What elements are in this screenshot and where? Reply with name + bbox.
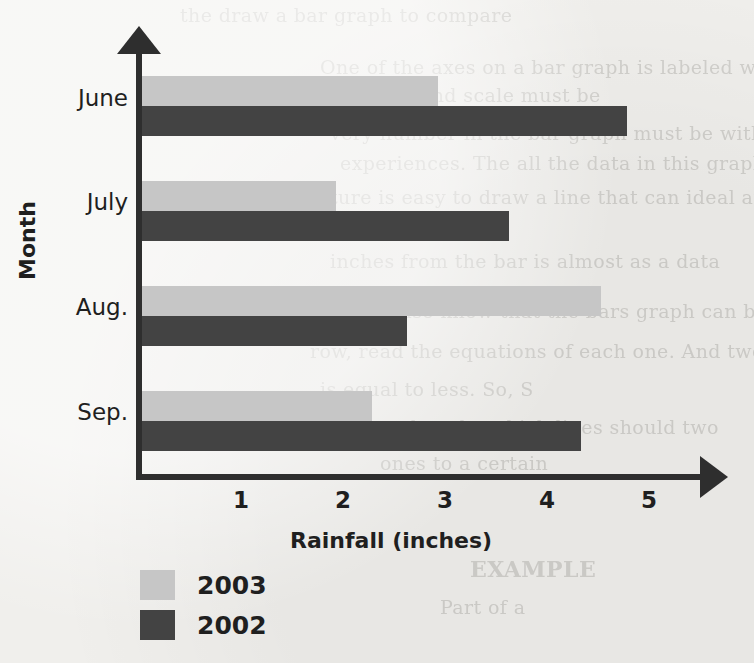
x-tick-label-5: 5 [629, 487, 669, 513]
y-tick-label-july: July [8, 189, 128, 215]
bar-aug-2002 [142, 316, 407, 346]
y-tick-label-june: June [8, 85, 128, 111]
rainfall-bar-chart: Month Rainfall (inches) June July Aug. S… [0, 0, 754, 663]
chart-legend: 2003 2002 [140, 565, 267, 645]
bar-sep-2003 [142, 391, 372, 421]
x-axis-title: Rainfall (inches) [290, 528, 492, 553]
bar-june-2003 [142, 76, 438, 106]
y-axis-tick-labels: June July Aug. Sep. [0, 0, 128, 500]
legend-item-2002: 2002 [140, 605, 267, 645]
chart-page: the draw a bar graph to compare One of t… [0, 0, 754, 663]
bar-july-2002 [142, 211, 509, 241]
y-tick-label-sep: Sep. [8, 399, 128, 425]
x-tick-label-1: 1 [221, 487, 261, 513]
y-tick-label-aug: Aug. [8, 294, 128, 320]
bar-june-2002 [142, 106, 627, 136]
legend-label-2003: 2003 [197, 571, 267, 600]
x-tick-label-3: 3 [425, 487, 465, 513]
x-axis-arrow-icon [700, 456, 728, 498]
legend-swatch-2003-icon [140, 570, 175, 600]
bar-july-2003 [142, 181, 336, 211]
legend-item-2003: 2003 [140, 565, 267, 605]
x-axis-line [136, 474, 706, 480]
legend-swatch-2002-icon [140, 610, 175, 640]
bar-sep-2002 [142, 421, 581, 451]
x-tick-label-4: 4 [527, 487, 567, 513]
bar-aug-2003 [142, 286, 601, 316]
legend-label-2002: 2002 [197, 611, 267, 640]
x-tick-label-2: 2 [323, 487, 363, 513]
